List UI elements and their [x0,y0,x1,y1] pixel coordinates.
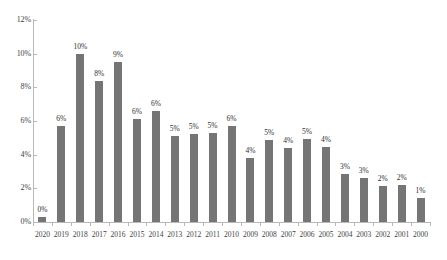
x-axis-tick [241,222,242,226]
bar-value-label: 5% [295,128,319,136]
y-axis-tick [33,188,37,189]
y-axis-tick [33,121,37,122]
bar-value-label: 0% [30,206,54,214]
y-axis-tick-label-text: 2% [3,184,31,192]
y-axis-tick-label: 2% [0,184,31,192]
y-axis-tick-label-text: 8% [3,83,31,91]
y-axis-tick [33,20,37,21]
y-axis-tick-label: 6% [0,117,31,125]
x-axis-tick [184,222,185,226]
bar-chart: 0%2%4%6%8%10%12% 0%6%10%8%9%6%6%5%5%5%6%… [0,0,447,260]
y-axis-tick-label: 10% [0,50,31,58]
bar[interactable] [114,62,122,222]
bar[interactable] [322,147,330,222]
bar[interactable] [38,217,46,222]
bar[interactable] [284,148,292,222]
x-axis-tick [90,222,91,226]
bar-value-label: 4% [276,137,300,145]
bar[interactable] [209,133,217,222]
y-axis-tick-label-text: 10% [3,50,31,58]
x-axis-line [33,222,431,223]
bar[interactable] [57,126,65,222]
bar[interactable] [95,81,103,222]
bar-value-label: 1% [409,187,433,195]
bar-value-label: 9% [106,51,130,59]
y-axis-tick-label-text: 12% [3,16,31,24]
bar[interactable] [190,134,198,222]
y-axis-tick-label: 8% [0,83,31,91]
x-axis-tick [146,222,147,226]
y-axis-tick-label: 12% [0,16,31,24]
y-axis-tick [33,87,37,88]
bar[interactable] [398,185,406,222]
bar-value-label: 6% [144,100,168,108]
y-axis-tick [33,155,37,156]
y-axis-tick-label: 0% [0,218,31,226]
bar[interactable] [379,186,387,222]
x-axis-tick [165,222,166,226]
bar[interactable] [341,174,349,222]
x-axis-tick [392,222,393,226]
x-axis-tick [354,222,355,226]
bar[interactable] [152,111,160,222]
bar-value-label: 6% [125,108,149,116]
x-axis-tick [260,222,261,226]
bar[interactable] [303,139,311,222]
x-axis-tick [335,222,336,226]
x-axis-tick [52,222,53,226]
x-axis-tick [317,222,318,226]
bar[interactable] [265,140,273,222]
bar-value-label: 4% [314,136,338,144]
bar[interactable] [417,198,425,222]
x-axis-tick [430,222,431,226]
bar[interactable] [133,119,141,222]
x-axis-tick [33,222,34,226]
bar-value-label: 6% [220,115,244,123]
x-axis-tick [298,222,299,226]
bar-value-label: 10% [68,43,92,51]
x-axis-tick [128,222,129,226]
bar[interactable] [228,126,236,222]
bar-value-label: 4% [238,147,262,155]
x-axis-tick [109,222,110,226]
x-axis-tick [71,222,72,226]
y-axis-tick [33,54,37,55]
bar-value-label: 2% [390,174,414,182]
bar[interactable] [171,136,179,222]
y-axis-tick-label: 4% [0,151,31,159]
x-axis-tick [411,222,412,226]
x-axis-tick [279,222,280,226]
x-axis-tick [373,222,374,226]
y-axis-tick-label-text: 4% [3,151,31,159]
bar-value-label: 6% [49,115,73,123]
bar[interactable] [360,178,368,222]
x-axis-tick [203,222,204,226]
y-axis-tick-label-text: 6% [3,117,31,125]
x-axis-tick-label: 2000 [409,230,433,239]
bar[interactable] [246,158,254,222]
bar-value-label: 8% [87,70,111,78]
y-axis-tick-label-text: 0% [3,218,31,226]
bar[interactable] [76,54,84,222]
x-axis-tick [222,222,223,226]
